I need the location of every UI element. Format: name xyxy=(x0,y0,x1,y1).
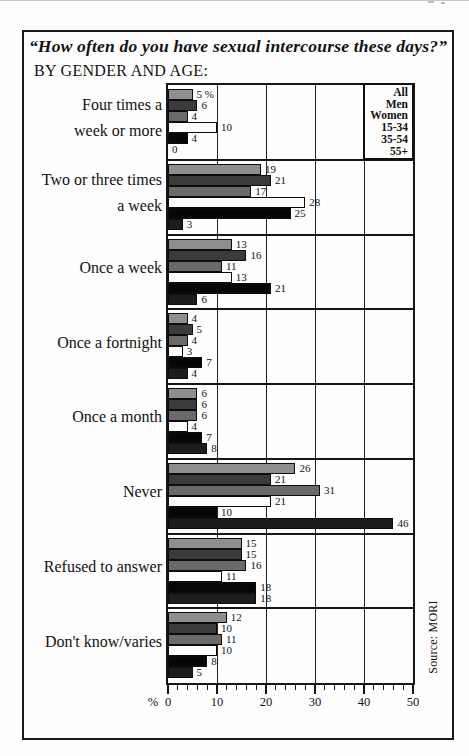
bar-value-label: 18 xyxy=(260,593,271,604)
category-label: Two or three timesa week xyxy=(22,156,162,231)
category-label: Refused to answer xyxy=(22,530,162,605)
bar-value-label: 31 xyxy=(324,485,335,496)
bar-value-label: 11 xyxy=(226,571,237,582)
axis-tick-minor xyxy=(275,685,276,690)
bar-value-label: 12 xyxy=(231,612,242,623)
plot-area: 5 %6410401921172825313161113216454374666… xyxy=(166,83,415,685)
bar-value-label: 10 xyxy=(221,507,232,518)
category-label-column: Four times aweek or moreTwo or three tim… xyxy=(22,85,162,683)
bar-all xyxy=(168,313,188,324)
scan-speck xyxy=(441,2,445,4)
axis-tick-minor xyxy=(393,685,394,690)
category-label: Once a fortnight xyxy=(22,305,162,380)
bar-value-label: 18 xyxy=(260,582,271,593)
scan-edge-artifact xyxy=(0,0,469,1)
bar-women xyxy=(168,560,246,571)
axis-tick-minor xyxy=(344,685,345,690)
axis-tick-label-20: 20 xyxy=(251,696,281,709)
row-separator xyxy=(168,458,413,460)
axis-tick-minor xyxy=(256,685,257,690)
bar-value-label: 5 xyxy=(197,324,203,335)
bar-value-label: 4 xyxy=(192,133,198,144)
bar-value-label: 11 xyxy=(226,261,237,272)
bar-value-label: 16 xyxy=(250,560,261,571)
bar-value-label: 4 xyxy=(192,335,198,346)
bar-all xyxy=(168,89,193,100)
row-separator xyxy=(168,607,413,609)
category-label-text: Refused to answer xyxy=(44,554,162,580)
category-label-text: Never xyxy=(123,479,162,505)
bar-value-label: 10 xyxy=(221,645,232,656)
bar-men xyxy=(168,250,246,261)
source-credit-text: Source: MORI xyxy=(426,600,441,673)
legend-item-all: All xyxy=(365,87,408,99)
bar-value-label: 13 xyxy=(236,272,247,283)
bar-value-label: 3 xyxy=(187,346,193,357)
bar-55+ xyxy=(168,368,188,379)
legend: AllMenWomen15-3435-5455+ xyxy=(363,83,414,160)
axis-unit-prefix: % xyxy=(144,696,162,709)
row-separator xyxy=(168,308,413,310)
bar-value-label: 15 xyxy=(246,549,257,560)
bar-55+ xyxy=(168,593,256,604)
axis-tick-major xyxy=(314,685,316,694)
category-label: Don't know/varies xyxy=(22,604,162,679)
bar-15-34 xyxy=(168,645,217,656)
bar-55+ xyxy=(168,518,393,529)
category-label: Never xyxy=(22,455,162,530)
bar-35-54 xyxy=(168,283,271,294)
axis-tick-minor xyxy=(285,685,286,690)
bar-value-label: 21 xyxy=(275,474,286,485)
bar-55+ xyxy=(168,294,197,305)
bar-value-label: 16 xyxy=(250,250,261,261)
row-separator xyxy=(168,383,413,385)
bar-value-label: 6 xyxy=(201,100,207,111)
bar-value-label: 10 xyxy=(221,122,232,133)
bar-35-54 xyxy=(168,582,256,593)
axis-tick-minor xyxy=(295,685,296,690)
bar-men xyxy=(168,549,242,560)
bar-value-label: 15 xyxy=(246,538,257,549)
bar-value-label: 13 xyxy=(236,239,247,250)
axis-tick-major xyxy=(265,685,267,694)
axis-tick-major xyxy=(412,685,414,694)
axis-tick-major xyxy=(363,685,365,694)
axis-tick-minor xyxy=(207,685,208,690)
axis-tick-minor xyxy=(197,685,198,690)
axis-tick-label-40: 40 xyxy=(349,696,379,709)
bar-men xyxy=(168,623,217,634)
category-label-text: Once a month xyxy=(72,404,162,430)
bar-women xyxy=(168,634,222,645)
axis-tick-label-30: 30 xyxy=(300,696,330,709)
category-label-text: Once a fortnight xyxy=(57,330,162,356)
bar-value-label: 8 xyxy=(211,656,217,667)
category-label: Four times aweek or more xyxy=(22,81,162,156)
bar-all xyxy=(168,388,197,399)
axis-tick-minor xyxy=(383,685,384,690)
axis-tick-minor xyxy=(305,685,306,690)
bar-35-54 xyxy=(168,432,202,443)
row-separator xyxy=(168,234,413,236)
axis-tick-minor xyxy=(177,685,178,690)
bar-15-34 xyxy=(168,346,183,357)
bar-all xyxy=(168,538,242,549)
axis-tick-minor xyxy=(403,685,404,690)
category-label-text: Don't know/varies xyxy=(45,629,162,655)
bar-value-label: 4 xyxy=(192,111,198,122)
legend-item-35-54: 35-54 xyxy=(365,134,408,146)
row-separator xyxy=(168,533,413,535)
category-label: Once a week xyxy=(22,231,162,306)
bar-value-label: 25 xyxy=(295,208,306,219)
bar-15-34 xyxy=(168,272,232,283)
bar-55+ xyxy=(168,219,183,230)
bar-value-label: 17 xyxy=(255,186,266,197)
bar-women xyxy=(168,485,320,496)
axis-tick-label-50: 50 xyxy=(398,696,428,709)
bar-women xyxy=(168,111,188,122)
bar-men xyxy=(168,324,193,335)
legend-item-55+: 55+ xyxy=(365,146,408,158)
bar-men xyxy=(168,474,271,485)
bar-all xyxy=(168,612,227,623)
x-axis: 01020304050% xyxy=(168,685,413,715)
category-label-text: Once a week xyxy=(79,255,162,281)
